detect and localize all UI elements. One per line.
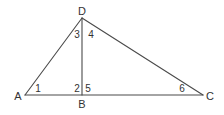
angle-label-5: 5: [85, 83, 91, 94]
vertex-label-a: A: [14, 90, 22, 102]
vertex-label-c: C: [206, 90, 214, 102]
triangle-diagram: D A B C 1 2 3 4 5 6: [0, 0, 224, 115]
segment-DC: [82, 18, 203, 95]
vertex-label-b: B: [78, 98, 85, 110]
angle-label-2: 2: [74, 83, 80, 94]
angle-label-3: 3: [74, 29, 80, 40]
angle-label-1: 1: [35, 83, 41, 94]
angle-label-4: 4: [88, 29, 94, 40]
angle-label-6: 6: [179, 83, 185, 94]
vertex-label-d: D: [78, 5, 86, 17]
